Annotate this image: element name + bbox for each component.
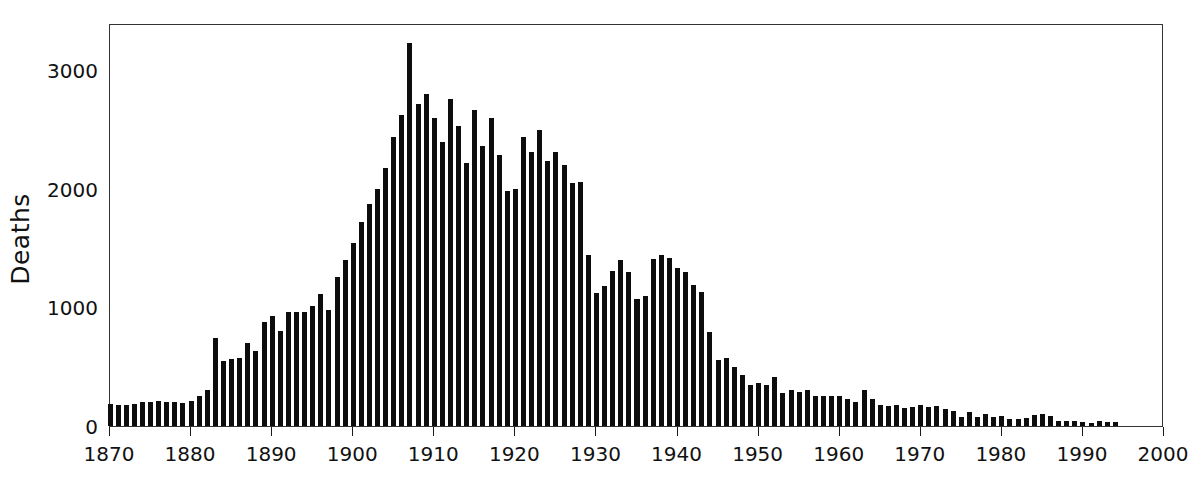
bar	[189, 401, 194, 426]
y-tick-label: 0	[20, 415, 98, 439]
bar	[278, 331, 283, 426]
bar	[764, 385, 769, 426]
bar	[108, 404, 113, 426]
bar	[505, 191, 510, 426]
bar	[318, 294, 323, 426]
x-tick-label: 1880	[165, 442, 216, 466]
bar	[878, 405, 883, 426]
bar	[716, 360, 721, 426]
bar	[570, 183, 575, 426]
bar	[853, 402, 858, 426]
bar	[116, 405, 121, 426]
bar	[253, 351, 258, 426]
bar	[821, 396, 826, 426]
x-tick-mark	[920, 427, 921, 436]
bar	[164, 402, 169, 426]
bar	[497, 155, 502, 426]
bar	[651, 259, 656, 426]
bar	[756, 383, 761, 426]
bar	[959, 417, 964, 426]
x-tick-label: 1960	[813, 442, 864, 466]
bar	[1016, 419, 1021, 426]
bar	[197, 396, 202, 426]
bar	[343, 260, 348, 426]
bar	[440, 142, 445, 426]
bar	[448, 99, 453, 426]
bar	[618, 260, 623, 426]
x-tick-label: 1890	[246, 442, 297, 466]
bar	[407, 43, 412, 426]
bar	[643, 296, 648, 426]
bar	[489, 118, 494, 426]
x-tick-label: 1910	[408, 442, 459, 466]
bar	[326, 310, 331, 426]
bar	[1064, 421, 1069, 426]
bar	[124, 405, 129, 426]
bar	[691, 285, 696, 426]
bar	[262, 322, 267, 426]
bar	[918, 405, 923, 426]
bar	[780, 393, 785, 426]
bar	[1024, 418, 1029, 426]
bar	[1113, 422, 1118, 426]
bar	[294, 312, 299, 426]
x-tick-mark	[1082, 427, 1083, 436]
bar	[1097, 421, 1102, 426]
bar	[270, 316, 275, 426]
bar	[335, 277, 340, 426]
bar	[132, 404, 137, 426]
bar	[586, 255, 591, 426]
y-tick-label: 3000	[20, 59, 98, 83]
bar	[1048, 416, 1053, 426]
bar	[707, 332, 712, 426]
x-tick-label: 1950	[732, 442, 783, 466]
bar	[594, 293, 599, 426]
bar	[399, 115, 404, 426]
chart-figure: Deaths 0100020003000 1870188018901900191…	[0, 0, 1199, 478]
bar	[951, 411, 956, 426]
bar	[789, 390, 794, 426]
x-tick-mark	[433, 427, 434, 436]
bar	[886, 406, 891, 426]
bar	[229, 359, 234, 426]
bar	[659, 255, 664, 426]
bar	[1007, 419, 1012, 426]
x-tick-mark	[352, 427, 353, 436]
bar	[416, 104, 421, 426]
bar	[245, 343, 250, 426]
x-tick-label: 1870	[84, 442, 135, 466]
bar	[732, 367, 737, 426]
bar	[456, 126, 461, 426]
bar	[724, 358, 729, 426]
x-tick-label: 1930	[570, 442, 621, 466]
bar	[902, 408, 907, 426]
bar	[772, 377, 777, 426]
bar	[432, 118, 437, 426]
bar	[562, 165, 567, 426]
bar	[1105, 422, 1110, 426]
bar	[172, 402, 177, 426]
x-tick-mark	[677, 427, 678, 436]
bar	[748, 385, 753, 426]
x-tick-label: 2000	[1138, 442, 1189, 466]
x-tick-label: 1990	[1056, 442, 1107, 466]
x-tick-mark	[1163, 427, 1164, 436]
bar	[221, 361, 226, 426]
bar	[1089, 423, 1094, 426]
x-tick-mark	[595, 427, 596, 436]
bar	[424, 94, 429, 426]
bar	[367, 204, 372, 426]
bar	[359, 222, 364, 426]
y-tick-label: 2000	[20, 178, 98, 202]
x-tick-mark	[271, 427, 272, 436]
bar	[870, 399, 875, 426]
bar	[829, 396, 834, 426]
bar	[391, 137, 396, 426]
bar	[375, 189, 380, 426]
bar	[845, 399, 850, 426]
bar	[983, 414, 988, 426]
bar	[1040, 414, 1045, 426]
bar	[926, 407, 931, 426]
bar	[513, 189, 518, 426]
bar	[975, 417, 980, 426]
